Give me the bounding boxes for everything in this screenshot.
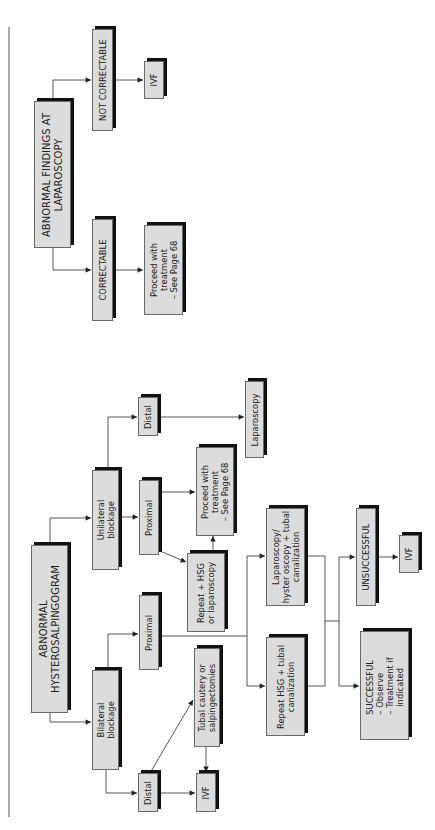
ivf-right-label: IVF: [404, 547, 414, 560]
successful-label: SUCCESSFUL – Observe – Treatment if indi…: [365, 657, 405, 714]
uni-distal-box: Distal: [138, 397, 158, 436]
ivf-label: IVF: [149, 73, 159, 86]
unsuccessful-box: UNSUCCESSFUL: [356, 508, 376, 606]
laparoscopy-label: Laparoscopy: [250, 393, 260, 446]
bi-distal-label: Distal: [143, 781, 153, 805]
lap-hyst-canalization-label: Laparoscopy/ hyster oscopy + tubal canal…: [271, 511, 301, 603]
bilateral-blockage-box: Bilateral blockage: [92, 670, 119, 770]
repeat-hsg-laparoscopy-label: Repeat + HSG or laparoscopy: [196, 562, 216, 624]
not-correctable-box: NOT CORRECTABLE: [92, 29, 113, 131]
abnormal-laparoscopy-box: ABNORMAL FINDINGS AT LAPAROSCOPY: [34, 101, 71, 248]
correctable-label: CORRECTABLE: [98, 239, 108, 300]
flowchart-canvas: ABNORMAL FINDINGS AT LAPAROSCOPY NOT COR…: [0, 0, 435, 830]
unilateral-blockage-label: Unilateral blockage: [96, 500, 116, 541]
not-correctable-label: NOT CORRECTABLE: [98, 39, 108, 121]
proceed-treatment-label: Proceed with treatment – See Page 68: [149, 241, 179, 300]
unsuccessful-label: UNSUCCESSFUL: [361, 523, 371, 590]
uni-proximal-label: Proximal: [144, 500, 154, 536]
bilateral-blockage-label: Bilateral blockage: [96, 701, 116, 739]
repeat-hsg-laparoscopy-box: Repeat + HSG or laparoscopy: [187, 553, 225, 632]
proceed-treatment-box-mid: Proceed with treatment – See Page 68: [196, 447, 234, 536]
proceed-treatment-mid-label: Proceed with treatment – See Page 68: [200, 462, 230, 521]
successful-box: SUCCESSFUL – Observe – Treatment if indi…: [360, 631, 409, 740]
ivf-box-bilateral: IVF: [196, 773, 216, 812]
tubal-cautery-label: Tubal cautery or salpingectomies: [197, 663, 217, 731]
unilateral-blockage-box: Unilateral blockage: [92, 470, 119, 570]
correctable-box: CORRECTABLE: [92, 219, 113, 321]
tubal-cautery-box: Tubal cautery or salpingectomies: [194, 648, 220, 747]
bi-distal-box: Distal: [138, 773, 158, 812]
ivf-bilateral-label: IVF: [201, 786, 211, 799]
ivf-box-right: IVF: [399, 535, 419, 573]
abnormal-laparoscopy-label: ABNORMAL FINDINGS AT LAPAROSCOPY: [41, 113, 65, 237]
ivf-box-top: IVF: [144, 61, 164, 99]
uni-distal-label: Distal: [143, 405, 153, 429]
laparoscopy-box: Laparoscopy: [245, 381, 264, 458]
uni-proximal-box: Proximal: [139, 480, 159, 555]
repeat-hsg-tubal-box: Repeat HSG + tubal canalization: [266, 637, 305, 736]
bi-proximal-label: Proximal: [144, 615, 154, 651]
abnormal-hsg-label: ABNORMAL HYSTEROSALPINGOGRAM: [38, 565, 62, 693]
abnormal-hsg-box: ABNORMAL HYSTEROSALPINGOGRAM: [31, 545, 68, 713]
repeat-hsg-tubal-label: Repeat HSG + tubal canalization: [276, 645, 296, 729]
proceed-treatment-box-top: Proceed with treatment – See Page 68: [144, 225, 183, 315]
lap-hyst-canalization-box: Laparoscopy/ hyster oscopy + tubal canal…: [266, 508, 305, 606]
bi-proximal-box: Proximal: [139, 595, 159, 670]
